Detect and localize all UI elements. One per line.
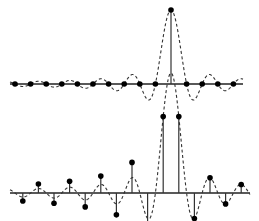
top-sample-dot: [168, 7, 174, 13]
top-sample: [199, 81, 205, 87]
top-sample-dot: [153, 81, 159, 87]
top-sample: [12, 81, 18, 87]
bottom-sample: [176, 114, 182, 193]
top-sample-dot: [90, 81, 96, 87]
top-sample: [106, 81, 112, 87]
bottom-sample: [51, 193, 57, 206]
top-sample-dot: [59, 81, 65, 87]
bottom-sample-dot: [51, 200, 57, 206]
bottom-sample: [114, 193, 120, 218]
top-samples: [12, 7, 236, 87]
top-sample: [59, 81, 65, 87]
top-sample-dot: [106, 81, 112, 87]
bottom-sample-dot: [67, 178, 73, 184]
bottom-samples: [20, 114, 244, 221]
bottom-sample-dot: [82, 204, 88, 210]
bottom-sample-dot: [114, 212, 120, 218]
top-sample-dot: [43, 81, 49, 87]
bottom-sample: [207, 175, 213, 193]
top-sample: [184, 81, 190, 87]
bottom-sample: [20, 193, 26, 204]
bottom-sample-dot: [223, 201, 229, 207]
bottom-sample-dot: [176, 114, 182, 120]
bottom-sample-dot: [20, 198, 26, 204]
bottom-sample: [129, 160, 135, 193]
top-sample-dot: [199, 81, 205, 87]
bottom-sample: [98, 173, 104, 193]
top-stem-plot: [10, 7, 243, 100]
top-sample: [43, 81, 49, 87]
top-sample-dot: [28, 81, 34, 87]
top-sample: [153, 81, 159, 87]
bottom-sinc-curve: [10, 73, 250, 219]
top-sample: [90, 81, 96, 87]
bottom-sample-dot: [98, 173, 104, 179]
bottom-sample-dot: [36, 181, 42, 187]
top-sample-dot: [215, 81, 221, 87]
bottom-sample: [36, 181, 42, 193]
bottom-sample-dot: [238, 182, 244, 188]
top-sample-dot: [75, 81, 81, 87]
top-sample: [168, 7, 174, 84]
top-sample-dot: [137, 81, 143, 87]
bottom-sample: [160, 114, 166, 193]
top-sample: [215, 81, 221, 87]
bottom-sample: [192, 193, 198, 221]
bottom-sample: [82, 193, 88, 210]
sampling-diagram: [0, 0, 259, 221]
top-sample: [28, 81, 34, 87]
top-sample-dot: [184, 81, 190, 87]
bottom-sample-dot: [160, 114, 166, 120]
top-sample: [121, 81, 127, 87]
top-sample-dot: [121, 81, 127, 87]
bottom-sample-dot: [129, 160, 135, 166]
top-sinc-curve: [10, 10, 243, 100]
top-sample-dot: [231, 81, 237, 87]
bottom-sample: [67, 178, 73, 193]
bottom-sample-dot: [207, 175, 213, 181]
bottom-sample: [238, 182, 244, 193]
top-sample-dot: [12, 81, 18, 87]
top-sample: [137, 81, 143, 87]
bottom-sample-dot: [192, 216, 198, 221]
top-sample: [75, 81, 81, 87]
bottom-stem-plot: [10, 73, 250, 221]
top-sample: [231, 81, 237, 87]
bottom-sample: [223, 193, 229, 207]
bottom-sample: [145, 193, 151, 221]
